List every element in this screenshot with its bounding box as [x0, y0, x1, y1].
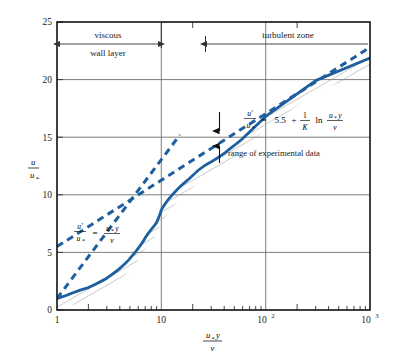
eq-log-constant: 5.5 — [274, 115, 286, 125]
x-tick-100: 10 2 — [257, 312, 275, 325]
x-axis-label-num-sub: * — [211, 335, 214, 342]
x-axis-label-num-y: y — [215, 330, 220, 340]
eq-log-equals: = — [261, 115, 266, 125]
y-axis-label-numerator: u — [31, 157, 35, 167]
svg-text:10: 10 — [361, 315, 371, 325]
eq-log-frac-den: K — [301, 123, 308, 132]
x-tick-1: 1 — [55, 315, 60, 325]
y-axis-label-denominator-sub: * — [36, 175, 40, 183]
eq-log-plus: + — [291, 115, 296, 125]
eq-sub-rhs-num-sub: * — [111, 228, 114, 234]
viscous-wall-layer-line1: viscous — [95, 30, 122, 40]
eq-log-arg-num-sub: * — [334, 115, 337, 121]
x-axis-label-num-u: u — [206, 330, 210, 340]
eq-log-lhs-den: u — [247, 121, 251, 130]
eq-log-lhs-den-sub: * — [252, 125, 255, 131]
viscous-wall-layer-line2: wall layer — [90, 48, 126, 58]
y-axis-label: u u * — [28, 157, 40, 183]
eq-sub-rhs-num-u: u — [106, 224, 110, 233]
eq-log-frac-num: 1 — [303, 111, 307, 120]
y-tick-10: 10 — [43, 190, 53, 200]
eq-sub-equals: = — [92, 228, 97, 238]
y-tick-20: 20 — [43, 75, 53, 85]
svg-text:10: 10 — [257, 315, 267, 325]
x-tick-1000: 10 3 — [361, 312, 379, 325]
y-tick-5: 5 — [47, 248, 52, 258]
svg-text:3: 3 — [375, 312, 379, 319]
eq-log-arg-num-y: y — [337, 111, 342, 120]
chart-svg: 0 5 10 15 20 25 1 10 10 2 10 3 u u * u *… — [0, 0, 393, 353]
y-tick-15: 15 — [43, 133, 53, 143]
range-of-experimental-data-label: range of experimental data — [228, 148, 320, 158]
y-tick-0: 0 — [47, 305, 52, 315]
eq-log-ln: ln — [315, 115, 323, 125]
eq-sub-rhs-num-y: y — [114, 224, 119, 233]
eq-sub-lhs-den-sub: * — [82, 238, 85, 244]
x-axis-label: u * y v — [203, 330, 222, 353]
y-tick-25: 25 — [43, 17, 53, 27]
x-tick-labels: 1 10 10 2 10 3 — [55, 312, 380, 325]
y-tick-labels: 0 5 10 15 20 25 — [43, 17, 53, 315]
figure-law-of-the-wall: 0 5 10 15 20 25 1 10 10 2 10 3 u u * u *… — [0, 0, 393, 353]
eq-log-arg-num-u: u — [329, 111, 333, 120]
eq-sub-lhs-num: u' — [77, 222, 83, 231]
eq-sub-lhs-den: u — [77, 234, 81, 243]
x-tick-10: 10 — [157, 315, 167, 325]
x-axis-label-denominator: v — [211, 343, 215, 353]
eq-log-lhs-num: u' — [247, 109, 253, 118]
turbulent-zone-label: turbulent zone — [262, 30, 314, 40]
y-axis-label-denominator: u — [30, 170, 34, 180]
svg-text:2: 2 — [271, 312, 275, 319]
